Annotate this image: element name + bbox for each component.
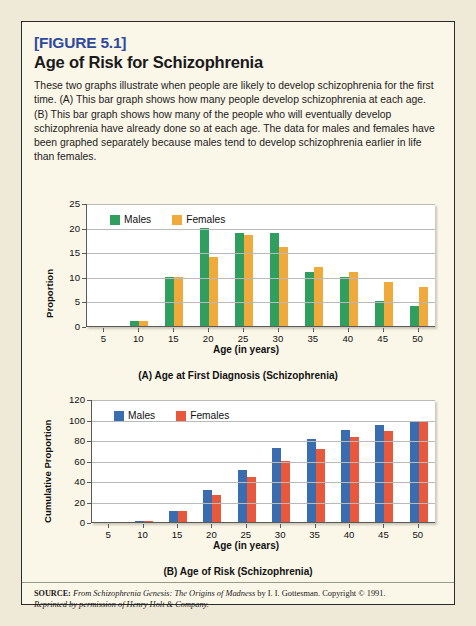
y-axis-tick-mark bbox=[87, 421, 91, 422]
bar-males bbox=[130, 321, 139, 326]
x-axis-tick-mark bbox=[418, 524, 419, 528]
y-axis-tick-mark bbox=[87, 482, 91, 483]
y-axis-tick-label: 60 bbox=[74, 456, 85, 467]
bar-males bbox=[203, 490, 212, 522]
x-axis-tick-label: 25 bbox=[229, 333, 257, 344]
source-note: SOURCE: From Schizophrenia Genesis: The … bbox=[34, 588, 442, 610]
x-axis-tick-mark bbox=[211, 524, 212, 528]
bar-males bbox=[305, 272, 314, 326]
gridline bbox=[87, 229, 435, 230]
chart-panel-b: Cumulative Proportion 020406080100120 51… bbox=[34, 396, 442, 564]
y-axis-tick-label: 5 bbox=[75, 296, 80, 307]
x-axis-tick-mark bbox=[143, 524, 144, 528]
bar-males bbox=[410, 421, 419, 522]
x-axis-tick-mark bbox=[173, 328, 174, 332]
x-axis-tick-mark bbox=[177, 524, 178, 528]
bar-group bbox=[262, 204, 297, 326]
bar-males bbox=[238, 470, 247, 522]
x-axis-tick-label: 20 bbox=[194, 333, 222, 344]
x-axis-tick-mark bbox=[278, 328, 279, 332]
source-attribution: by I. I. Gottesman. Copyright © 1991. bbox=[255, 589, 385, 598]
source-prefix: SOURCE: bbox=[34, 589, 71, 598]
bar-females bbox=[350, 437, 359, 522]
x-axis-tick-label: 15 bbox=[159, 333, 187, 344]
x-axis-tick-label: 45 bbox=[369, 333, 397, 344]
chart-a-y-axis-label: Proportion bbox=[44, 269, 55, 318]
figure-header: [FIGURE 5.1] Age of Risk for Schizophren… bbox=[34, 32, 444, 171]
x-axis-tick-label: 40 bbox=[335, 529, 363, 540]
source-permission: Reprinted by permission of Henry Holt & … bbox=[34, 600, 209, 609]
gridline bbox=[87, 204, 435, 205]
chart-b-x-axis-title: Age (in years) bbox=[60, 540, 432, 551]
x-axis-tick-label: 40 bbox=[334, 333, 362, 344]
x-axis-tick-mark bbox=[103, 328, 104, 332]
chart-b-caption: (B) Age of Risk (Schizophrenia) bbox=[34, 566, 442, 577]
chart-b-legend: MalesFemales bbox=[114, 410, 229, 421]
bar-females bbox=[281, 461, 290, 523]
x-axis-tick-mark bbox=[383, 328, 384, 332]
chart-a-legend: MalesFemales bbox=[110, 214, 225, 225]
x-axis-tick-label: 45 bbox=[369, 529, 397, 540]
gridline bbox=[92, 462, 435, 463]
x-axis-tick-mark bbox=[243, 328, 244, 332]
figure-description: These two graphs illustrate when people … bbox=[34, 79, 438, 165]
gridline bbox=[87, 253, 435, 254]
x-axis-tick-mark bbox=[108, 524, 109, 528]
x-axis-tick-label: 25 bbox=[232, 529, 260, 540]
bar-females bbox=[212, 495, 221, 522]
x-axis-tick-label: 15 bbox=[163, 529, 191, 540]
bar-females bbox=[247, 477, 256, 522]
x-axis-tick-label: 30 bbox=[264, 333, 292, 344]
y-axis-tick-label: 0 bbox=[75, 321, 80, 332]
bar-group bbox=[366, 204, 401, 326]
legend-swatch-icon bbox=[114, 411, 124, 421]
x-axis-tick-mark bbox=[315, 524, 316, 528]
y-axis-tick-label: 20 bbox=[74, 497, 85, 508]
x-axis-tick-mark bbox=[246, 524, 247, 528]
gridline bbox=[92, 503, 435, 504]
x-axis-tick-mark bbox=[383, 524, 384, 528]
bar-females bbox=[314, 267, 323, 326]
y-axis-tick-label: 100 bbox=[69, 415, 85, 426]
source-title: From Schizophrenia Genesis: The Origins … bbox=[73, 589, 255, 598]
figure-title: Age of Risk for Schizophrenia bbox=[34, 53, 444, 72]
y-axis-tick-label: 0 bbox=[80, 517, 85, 528]
y-axis-tick-label: 10 bbox=[69, 272, 80, 283]
y-axis-tick-mark bbox=[82, 327, 86, 328]
x-axis-tick-label: 5 bbox=[94, 529, 122, 540]
legend-item-females: Females bbox=[176, 410, 229, 421]
y-axis-tick-mark bbox=[82, 253, 86, 254]
bar-females bbox=[244, 235, 253, 326]
x-axis-tick-label: 35 bbox=[301, 529, 329, 540]
bar-group bbox=[296, 204, 331, 326]
x-axis-tick-label: 30 bbox=[266, 529, 294, 540]
bar-males bbox=[307, 439, 316, 522]
y-axis-tick-mark bbox=[87, 400, 91, 401]
bar-males bbox=[375, 425, 384, 522]
bar-males bbox=[270, 233, 279, 326]
x-axis-tick-mark bbox=[208, 328, 209, 332]
gridline bbox=[87, 278, 435, 279]
y-axis-tick-label: 120 bbox=[69, 394, 85, 405]
bar-males bbox=[375, 301, 384, 326]
x-axis-tick-mark bbox=[313, 328, 314, 332]
chart-a-x-axis-title: Age (in years) bbox=[60, 344, 432, 355]
bar-males bbox=[200, 228, 209, 326]
figure-number-label: [FIGURE 5.1] bbox=[34, 34, 444, 52]
x-axis-tick-mark bbox=[418, 328, 419, 332]
y-axis-tick-mark bbox=[82, 278, 86, 279]
bar-females bbox=[279, 247, 288, 326]
legend-item-males: Males bbox=[114, 410, 155, 421]
bar-males bbox=[169, 511, 178, 522]
y-axis-tick-label: 25 bbox=[69, 198, 80, 209]
chart-a-caption: (A) Age at First Diagnosis (Schizophreni… bbox=[34, 370, 442, 381]
y-axis-tick-mark bbox=[82, 229, 86, 230]
gridline bbox=[87, 302, 435, 303]
bar-females bbox=[419, 287, 428, 326]
x-axis-tick-label: 50 bbox=[404, 333, 432, 344]
legend-label: Females bbox=[190, 410, 229, 421]
legend-item-females: Females bbox=[172, 214, 225, 225]
bar-group bbox=[227, 204, 262, 326]
bar-females bbox=[316, 449, 325, 522]
x-axis-tick-label: 20 bbox=[197, 529, 225, 540]
